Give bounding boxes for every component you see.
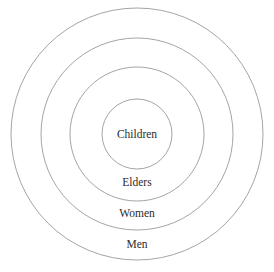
ring-label-children: Children (117, 128, 157, 140)
concentric-rings-svg: Children Elders Women Men (0, 0, 274, 272)
ring-label-women: Women (119, 207, 155, 219)
ring-label-men: Men (126, 238, 147, 250)
concentric-rings-diagram: Children Elders Women Men (0, 0, 274, 272)
ring-label-elders: Elders (122, 176, 152, 188)
